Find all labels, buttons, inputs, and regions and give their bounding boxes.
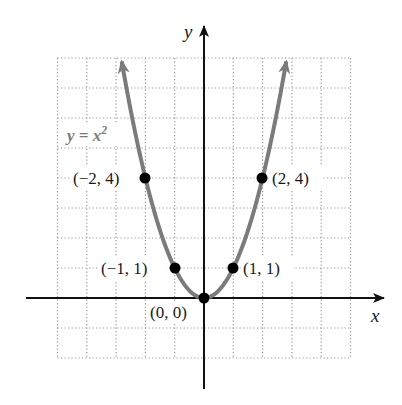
point-origin — [199, 293, 210, 304]
x-axis-label: x — [370, 305, 380, 326]
point-neg2-4 — [140, 173, 151, 184]
label-point-2-4: (2, 4) — [272, 169, 309, 188]
label-point-neg2-4: (−2, 4) — [73, 169, 119, 188]
y-axis-label: y — [182, 21, 193, 42]
graph-canvas: (−2, 4) (2, 4) (−1, 1) (1, 1) (0, 0) y =… — [0, 0, 402, 405]
equation-label: y = x2 — [65, 123, 107, 145]
point-1-1 — [228, 263, 239, 274]
label-point-1-1: (1, 1) — [243, 259, 280, 278]
parabola-graph: (−2, 4) (2, 4) (−1, 1) (1, 1) (0, 0) y =… — [0, 0, 402, 405]
point-2-4 — [257, 173, 268, 184]
point-neg1-1 — [170, 263, 181, 274]
label-point-origin: (0, 0) — [150, 303, 187, 322]
label-point-neg1-1: (−1, 1) — [101, 259, 147, 278]
